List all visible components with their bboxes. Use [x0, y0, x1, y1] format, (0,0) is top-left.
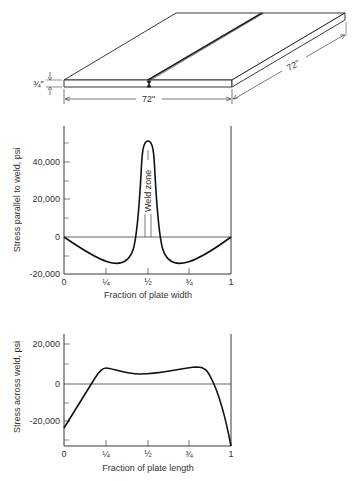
x-tick: ¼ [102, 277, 110, 287]
x-tick: ¾ [185, 277, 193, 287]
stress-curve [64, 367, 231, 446]
y-tick: -20,000 [29, 269, 60, 279]
x-tick: 1 [228, 277, 233, 287]
x-tick: 1 [228, 449, 233, 459]
y-tick: 20,000 [32, 194, 60, 204]
y-axis-label: Stress across weld, psi [12, 341, 22, 433]
figure: ¾" 72" 72" Weld zone [0, 0, 358, 481]
y-tick: -20,000 [29, 416, 60, 426]
width-label: 72" [142, 94, 155, 104]
x-tick: ¾ [185, 449, 193, 459]
x-axis-label: Fraction of plate width [104, 290, 192, 300]
x-tick: ¼ [102, 449, 110, 459]
chart-stress-parallel: Weld zone 40,000 20,000 0 -20,000 0 ¼ ½ … [12, 126, 234, 300]
x-tick: ½ [144, 449, 152, 459]
weld-zone-label: Weld zone [143, 170, 153, 212]
x-axis-label: Fraction of plate length [102, 463, 194, 473]
y-tick: 0 [55, 232, 60, 242]
x-tick: 0 [61, 277, 66, 287]
x-tick: 0 [61, 449, 66, 459]
y-tick: 40,000 [32, 157, 60, 167]
y-tick: 0 [55, 379, 60, 389]
chart-stress-across: 20,000 0 -20,000 0 ¼ ½ ¾ 1 Fraction of p… [12, 334, 234, 473]
length-label: 72" [285, 58, 301, 73]
y-axis-label: Stress parallel to weld, psi [12, 148, 22, 253]
welded-plate-drawing [46, 13, 346, 104]
thickness-label: ¾" [33, 79, 44, 89]
y-tick: 20,000 [32, 339, 60, 349]
x-tick: ½ [144, 277, 152, 287]
